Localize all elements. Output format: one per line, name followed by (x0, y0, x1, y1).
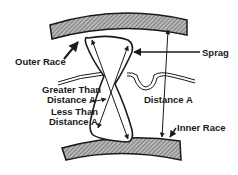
label-outer-race: Outer Race (15, 56, 66, 67)
distance-a-line (162, 30, 168, 137)
label-greater-line2: Distance A (47, 94, 96, 105)
label-sprag: Sprag (202, 47, 229, 58)
label-less-line2: Distance A (49, 116, 98, 127)
outer-race-arrow (64, 42, 78, 59)
outer-race-shape (50, 13, 187, 39)
sprag-clutch-diagram: Outer Race Sprag Greater Than Distance A… (0, 0, 238, 175)
inner-race-arrow (170, 128, 176, 137)
label-inner-race: Inner Race (177, 122, 226, 133)
label-distance-a: Distance A (144, 94, 193, 105)
